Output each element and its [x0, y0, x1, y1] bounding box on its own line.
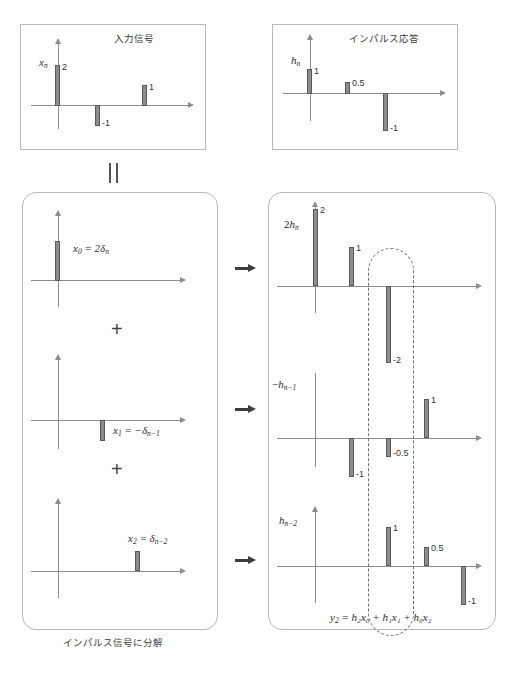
- decomp2-x-axis: [31, 420, 181, 421]
- input-bar-2: [142, 85, 147, 106]
- resp1-bar-1: [349, 247, 354, 286]
- decomp-plus-1: +: [111, 319, 123, 339]
- decomp3-x-axis-arrow-icon: [180, 568, 186, 574]
- panel-decomposition: x0 = 2δn + x1 = −δn−1 + x2 = δn−2: [22, 192, 218, 630]
- resp3-bar-2-value: -1: [468, 597, 476, 606]
- impulse-y-axis-arrow-icon: [307, 34, 313, 40]
- arrow-to-response-3: [235, 556, 257, 565]
- decomp3-equation: x2 = δn−2: [128, 533, 167, 545]
- impulse-bar-2-value: -1: [390, 124, 398, 133]
- resp1-bar-0: [313, 209, 318, 286]
- impulse-bar-0: [307, 69, 312, 94]
- resp1-bar-1-value: 1: [356, 244, 361, 253]
- decomp1-bar-0: [55, 241, 60, 281]
- input-axis-label: xn: [39, 57, 48, 69]
- impulse-axis-label: hn: [291, 55, 300, 67]
- resp2-x-axis-arrow-icon: [476, 435, 482, 441]
- decomp1-equation: x0 = 2δn: [73, 243, 109, 255]
- resp1-x-axis-arrow-icon: [476, 283, 482, 289]
- impulse-bar-1: [345, 82, 350, 94]
- input-y-axis-arrow-icon: [55, 38, 61, 44]
- resp3-bar-1-value: 0.5: [431, 544, 444, 553]
- decomp3-x-axis: [31, 571, 181, 572]
- arrow-to-response-2: [235, 405, 257, 414]
- resp1-axis-label: 22hhn: [284, 219, 299, 231]
- decomp2-bar-1: [100, 420, 105, 441]
- input-bar-0-value: 2: [62, 63, 67, 72]
- decomp3-y-axis: [58, 503, 59, 598]
- decomp3-bar-2: [135, 551, 140, 571]
- resp3-bar-2: [461, 566, 466, 605]
- decomp1-x-axis: [31, 280, 181, 281]
- decomp1-y-axis-arrow-icon: [55, 210, 61, 216]
- input-bar-1-value: -1: [102, 119, 110, 128]
- resp2-axis-label: −hn−1: [272, 379, 296, 391]
- resp3-x-axis-arrow-icon: [476, 563, 482, 569]
- arrow-to-response-1: [235, 264, 257, 273]
- decomposition-caption: インパルス信号に分解: [63, 638, 163, 648]
- decomp3-y-axis-arrow-icon: [55, 498, 61, 504]
- resp3-y-axis-arrow-icon: [312, 506, 318, 512]
- decomp2-x-axis-arrow-icon: [180, 417, 186, 423]
- highlight-capsule: [368, 248, 414, 636]
- impulse-bar-2: [383, 93, 388, 131]
- decomp2-y-axis: [58, 359, 59, 449]
- input-x-axis-arrow-icon: [188, 102, 194, 108]
- input-bar-2-value: 1: [149, 83, 154, 92]
- resp1-y-axis-arrow-icon: [312, 201, 318, 207]
- resp1-bar-0-value: 2: [320, 206, 325, 215]
- input-bar-0: [55, 65, 60, 106]
- decomp-plus-2: +: [111, 459, 123, 479]
- decomp2-y-axis-arrow-icon: [55, 354, 61, 360]
- resp2-bar-0-value: -1: [356, 470, 364, 479]
- panel-input-title: 入力信号: [114, 34, 154, 44]
- resp3-axis-label: hn−2: [279, 515, 297, 527]
- panel-input-signal: 入力信号 xn 2 -1 1: [20, 24, 206, 150]
- impulse-bar-1-value: 0.5: [352, 79, 365, 88]
- input-bar-1: [95, 105, 100, 126]
- impulse-bar-0-value: 1: [314, 67, 319, 76]
- resp2-y-axis: [315, 373, 316, 467]
- decomp2-equation: x1 = −δn−1: [113, 425, 160, 437]
- resp3-bar-1: [424, 547, 429, 566]
- equals-symbol: [108, 163, 120, 183]
- decomp1-x-axis-arrow-icon: [180, 277, 186, 283]
- resp2-bar-0: [349, 438, 354, 477]
- resp2-bar-2-value: 1: [431, 396, 436, 405]
- figure-root: 入力信号 xn 2 -1 1 インパルス応答 hn 1 0.5 -1: [0, 0, 515, 686]
- resp3-y-axis: [315, 511, 316, 603]
- resp2-bar-2: [424, 399, 429, 438]
- panel-impulse-response: インパルス応答 hn 1 0.5 -1: [272, 24, 458, 150]
- panel-impulse-title: インパルス応答: [349, 34, 419, 44]
- impulse-x-axis-arrow-icon: [440, 90, 446, 96]
